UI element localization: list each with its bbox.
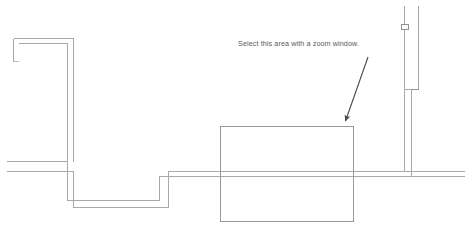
callout-text: Select this area with a zoom window. [238,39,378,48]
zoom-target-rectangle-outline[interactable] [221,127,354,222]
drawing-canvas: Select this area with a zoom window. [0,0,465,236]
upper-left-wall [14,39,74,162]
pipe-fitting-box [402,25,409,30]
cad-section-drawing [0,0,465,236]
grade-lines-left [7,162,74,172]
callout-arrow [346,57,369,121]
pipe-fitting [402,25,409,30]
vertical-riser-pipe [405,6,419,90]
callout-arrow-line [346,57,369,121]
upper-left-wall-inner [19,44,68,162]
upper-left-wall-outer [14,39,74,162]
zoom-target-rectangle[interactable] [221,127,354,222]
drop-pipe [405,90,419,177]
